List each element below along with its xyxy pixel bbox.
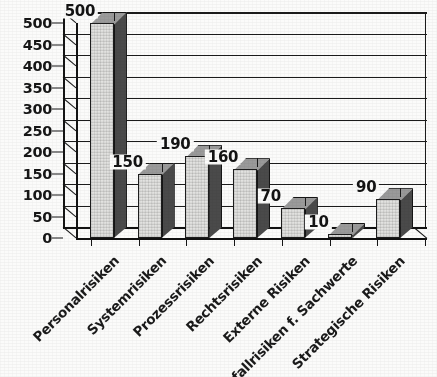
x-axis-category-label: Systemrisiken xyxy=(85,328,95,338)
bar xyxy=(138,174,162,239)
y-axis-tick-mark xyxy=(52,109,63,110)
bar xyxy=(281,208,305,238)
bar-front-face xyxy=(376,199,400,238)
y-axis-tick-label: 450 xyxy=(6,37,52,52)
x-axis-tick-mark xyxy=(330,238,331,246)
y-axis-tick-mark xyxy=(52,130,63,131)
y-axis-tick-mark xyxy=(52,173,63,174)
bar xyxy=(185,156,209,238)
bar-side-panel xyxy=(114,12,127,238)
bar xyxy=(328,234,352,238)
bar-value-label: 10 xyxy=(305,214,331,229)
y-axis-tick-mark xyxy=(52,66,63,67)
bar-front-face xyxy=(138,174,162,239)
bar-value-label: 150 xyxy=(109,154,145,169)
y-axis-back-wall xyxy=(63,12,65,227)
x-axis-tick-mark xyxy=(282,238,283,246)
x-axis-category-label: Strategische Risiken xyxy=(290,362,300,372)
bar-front-face xyxy=(185,156,209,238)
y-axis-tick-mark xyxy=(52,44,63,45)
bar-side-panel xyxy=(162,163,175,239)
bar-value-label: 190 xyxy=(157,137,193,152)
y-axis-tick-mark xyxy=(52,216,63,217)
y-axis-tick-label: 500 xyxy=(6,16,52,31)
y-axis-tick-mark xyxy=(52,87,63,88)
y-axis-tick-label: 150 xyxy=(6,166,52,181)
x-axis-category-label: Prozessrisiken xyxy=(131,330,141,340)
bar-front-face xyxy=(328,234,352,238)
y-axis-tick-mark xyxy=(52,152,63,153)
x-axis-tick-mark xyxy=(139,238,140,246)
value-label-connector xyxy=(305,197,306,206)
y-axis-tick-mark xyxy=(52,195,63,196)
bar-front-face xyxy=(90,23,114,238)
y-axis-tick-label: 250 xyxy=(6,123,52,138)
value-label-connector xyxy=(352,223,353,232)
y-axis-tick-label: 300 xyxy=(6,102,52,117)
bar-value-label: 160 xyxy=(205,150,241,165)
y-axis-tick-mark xyxy=(52,238,63,239)
x-axis-category-label: Externe Risiken xyxy=(221,336,231,346)
x-axis-tick-mark xyxy=(377,238,378,246)
x-axis-tick-mark xyxy=(186,238,187,246)
y-axis-tick-label: 350 xyxy=(6,80,52,95)
bar-value-label: 90 xyxy=(353,180,379,195)
bar-front-face xyxy=(281,208,305,238)
y-axis-tick-label: 400 xyxy=(6,59,52,74)
y-axis-tick-label: 0 xyxy=(6,231,52,246)
bar xyxy=(376,199,400,238)
bar xyxy=(90,23,114,238)
bar-chart-figure: 050100150200250300350400450500 500150190… xyxy=(0,0,437,377)
plot-right-frame xyxy=(425,12,426,227)
y-axis-tick-mark xyxy=(52,23,63,24)
x-axis-tick-mark xyxy=(234,238,235,246)
bar xyxy=(233,169,257,238)
y-axis-tick-label: 100 xyxy=(6,188,52,203)
y-axis-front-wall xyxy=(76,23,78,238)
x-axis-tick-mark xyxy=(425,238,426,246)
x-axis-tick-mark xyxy=(91,238,92,246)
value-label-connector xyxy=(400,188,401,197)
y-axis-tick-label: 50 xyxy=(6,209,52,224)
x-axis-category-label: Rechtsrisiken xyxy=(184,325,194,335)
bar-value-label: 70 xyxy=(258,188,284,203)
value-label-connector xyxy=(162,163,163,172)
value-label-connector xyxy=(114,12,115,21)
y-axis-tick-label: 200 xyxy=(6,145,52,160)
bar-front-face xyxy=(233,169,257,238)
axis-baseline-front xyxy=(76,238,427,240)
bar-value-label: 500 xyxy=(62,4,98,19)
value-label-connector xyxy=(257,158,258,167)
y-axis-tick-labels: 050100150200250300350400450500 xyxy=(0,0,52,377)
